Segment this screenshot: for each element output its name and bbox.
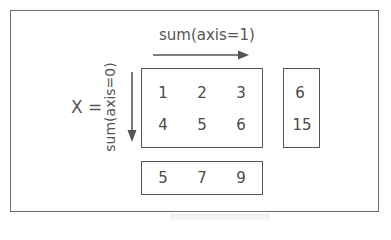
col-sum-label: sum(axis=0) [102,62,118,151]
down-arrow-icon [126,70,138,146]
row-sum-cell: 15 [292,116,311,134]
col-sums-box: 5 7 9 [141,161,263,195]
matrix-cell: 6 [236,116,246,134]
row-sum-cell: 6 [295,84,305,102]
row-sums-box: 6 15 [283,68,320,148]
col-sum-cell: 5 [158,169,168,187]
matrix-box: 1 2 3 4 5 6 [141,68,263,148]
cropped-caption [170,214,270,220]
matrix-cell: 4 [158,116,168,134]
right-arrow-icon [150,49,252,61]
col-sum-cell: 7 [197,169,207,187]
row-sum-label: sum(axis=1) [159,26,255,44]
variable-label: X = [71,97,102,117]
matrix-cell: 3 [236,84,246,102]
matrix-cell: 2 [197,84,207,102]
matrix-cell: 1 [158,84,168,102]
col-sum-cell: 9 [236,169,246,187]
matrix-cell: 5 [197,116,207,134]
